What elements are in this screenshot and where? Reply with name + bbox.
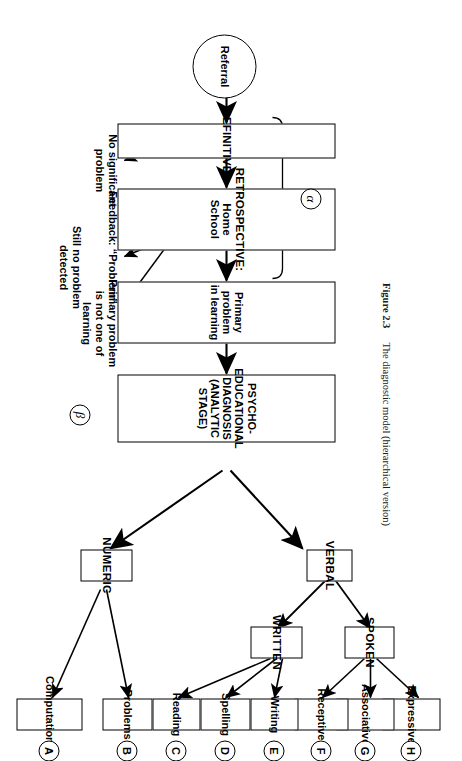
leaf-marker-g: G bbox=[354, 740, 375, 761]
beta-stage-marker-label: β bbox=[72, 411, 88, 417]
stage-box-definitive[interactable]: DEFINITIVE bbox=[117, 123, 335, 158]
stage-box-psycho-educational[interactable]: PSYCHO-EDUCATIONAL DIAGNOSIS (ANALYTIC S… bbox=[117, 374, 335, 442]
alpha-stage-marker: α bbox=[300, 188, 321, 209]
leaf-marker-g-label: G bbox=[359, 746, 371, 755]
leaf-box-computational[interactable]: Computational bbox=[16, 698, 82, 730]
leaf-box-problems[interactable]: Problems bbox=[102, 698, 152, 730]
leaf-box-receptive[interactable]: Receptive bbox=[294, 698, 348, 730]
branch-box-written-label: WRITTEN bbox=[270, 612, 283, 671]
leaf-marker-h: H bbox=[400, 740, 421, 761]
leaf-marker-d: D bbox=[214, 740, 235, 761]
leaf-box-spelling[interactable]: Spelling bbox=[200, 698, 250, 730]
referral-label: Referral bbox=[218, 45, 230, 87]
leaf-box-expressive-label: Expressive bbox=[405, 683, 417, 745]
leaf-marker-a: A bbox=[38, 740, 59, 761]
leaf-marker-f: F bbox=[310, 740, 331, 761]
leaf-marker-b: B bbox=[116, 740, 137, 761]
branch-box-verbal-label: VERBAL bbox=[323, 538, 336, 592]
stage-box-psycho-educational-label: PSYCHO-EDUCATIONAL DIAGNOSIS (ANALYTIC S… bbox=[195, 366, 257, 450]
analytic-split-arrows bbox=[110, 470, 302, 548]
stage-box-primary-problem[interactable]: Primary problem in learning bbox=[117, 281, 335, 343]
stage-box-primary-problem-label: Primary problem in learning bbox=[208, 282, 245, 342]
figure-caption: Figure 2.3 The diagnostic model (hierarc… bbox=[381, 283, 392, 526]
leaf-box-problems-label: Problems bbox=[121, 687, 133, 741]
beta-stage-marker: β bbox=[69, 404, 90, 425]
alpha-stage-marker-label: α bbox=[303, 195, 319, 202]
leaf-box-spelling-label: Spelling bbox=[219, 691, 231, 738]
leaf-marker-a-label: A bbox=[43, 747, 55, 755]
leaf-marker-b-label: B bbox=[121, 747, 133, 755]
leaf-marker-f-label: F bbox=[315, 747, 327, 754]
referral-node[interactable]: Referral bbox=[192, 34, 256, 98]
leaf-marker-h-label: H bbox=[405, 747, 417, 755]
branch-box-numeric[interactable]: NUMERIC bbox=[80, 549, 132, 581]
leaf-box-receptive-label: Receptive bbox=[315, 686, 327, 742]
leaf-marker-d-label: D bbox=[219, 747, 231, 755]
leaf-box-reading-label: Reading bbox=[170, 690, 182, 737]
leaf-marker-c: C bbox=[165, 740, 186, 761]
leaf-marker-e: E bbox=[263, 740, 284, 761]
note-primary-problem-not-learning: Primary problem is not one of learning bbox=[79, 268, 118, 378]
leaf-marker-e-label: E bbox=[268, 747, 280, 754]
branch-box-numeric-label: NUMERIC bbox=[100, 535, 113, 595]
branch-box-verbal[interactable]: VERBAL bbox=[306, 549, 352, 581]
note-still-no-problem-detected: Still no problem detected bbox=[56, 212, 82, 322]
numeric-leaf-arrows bbox=[52, 589, 128, 697]
leaf-box-writing-label: Writing bbox=[268, 693, 280, 735]
stage-box-retrospective-label: RETROSPECTIVE: Home School bbox=[207, 165, 246, 273]
figure-caption-label: Figure 2.3 bbox=[381, 283, 392, 328]
branch-box-spoken[interactable]: SPOKEN bbox=[344, 626, 394, 658]
branch-box-written[interactable]: WRITTEN bbox=[250, 626, 302, 658]
branch-box-spoken-label: SPOKEN bbox=[363, 615, 376, 670]
leaf-box-reading[interactable]: Reading bbox=[152, 698, 200, 730]
figure-caption-text: The diagnostic model (hierarchical versi… bbox=[381, 342, 392, 526]
leaf-box-associative-label: Associative bbox=[359, 681, 371, 746]
leaf-marker-c-label: C bbox=[170, 747, 182, 755]
leaf-box-writing[interactable]: Writing bbox=[250, 698, 298, 730]
